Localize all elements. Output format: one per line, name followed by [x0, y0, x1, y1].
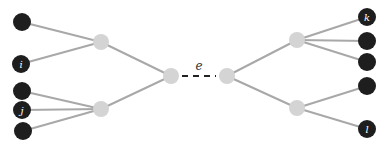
edge-E-R3: [297, 40, 367, 62]
internal-circle: [93, 101, 109, 117]
internal-node: [289, 100, 305, 116]
edge-L5-B: [23, 109, 101, 131]
edge-E-Rk: [297, 17, 367, 40]
leaf-node-i: i: [12, 55, 30, 73]
internal-node: [93, 101, 109, 117]
leaf-node-k: k: [358, 8, 376, 26]
edge-L3-B: [22, 91, 101, 109]
leaf-node: [14, 122, 32, 140]
leaf-node: [358, 32, 376, 50]
leaf-node: [13, 82, 31, 100]
tree-diagram: e ijkl: [0, 0, 387, 152]
internal-node: [289, 32, 305, 48]
edge-F-R4: [297, 86, 367, 108]
leaf-node-l: l: [358, 120, 376, 138]
internal-circle: [219, 68, 235, 84]
edge-F-Rl: [297, 108, 367, 129]
leaf-node: [358, 53, 376, 71]
leaf-circle: [358, 32, 376, 50]
central-edge-label: e: [195, 59, 202, 73]
edge-D-F: [227, 76, 297, 108]
edge-B-C: [101, 76, 171, 109]
node-label: i: [19, 59, 22, 70]
tree-edges: [21, 17, 367, 131]
leaf-circle: [358, 77, 376, 95]
edge-L1-A: [22, 22, 101, 42]
edge-A-C: [101, 42, 171, 76]
internal-node: [219, 68, 235, 84]
node-label: k: [364, 12, 370, 23]
internal-circle: [289, 32, 305, 48]
internal-circle: [93, 34, 109, 50]
internal-node: [93, 34, 109, 50]
leaf-node: [358, 77, 376, 95]
edge-Lj-B: [22, 109, 101, 110]
node-label: l: [365, 124, 368, 135]
leaf-circle: [358, 53, 376, 71]
tree-nodes: ijkl: [12, 8, 376, 140]
leaf-node: [13, 13, 31, 31]
internal-circle: [163, 68, 179, 84]
edge-E-R2: [297, 40, 367, 41]
leaf-circle: [13, 13, 31, 31]
internal-node: [163, 68, 179, 84]
leaf-circle: [14, 122, 32, 140]
edge-D-E: [227, 40, 297, 76]
leaf-circle: [13, 82, 31, 100]
leaf-node-j: j: [13, 101, 31, 119]
internal-circle: [289, 100, 305, 116]
edge-Li-A: [21, 42, 101, 64]
